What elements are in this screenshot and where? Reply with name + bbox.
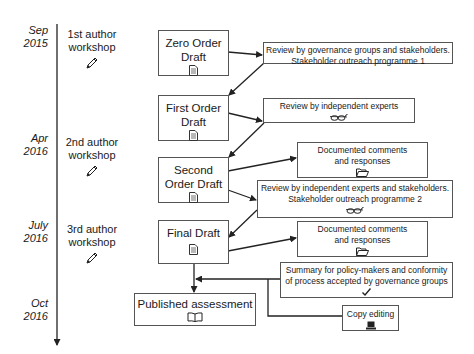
document-icon [189,244,198,255]
first-order-draft-box: First Order Draft [158,95,229,141]
documented-comments-box: Documented comments and responses [297,142,428,178]
workshop-line: workshop [62,41,122,54]
pencil-icon [85,251,99,265]
draft-label: Second [159,163,228,177]
document-icon [189,192,198,203]
summary-policy-makers-box: Summary for policy-makers and conformity… [280,262,453,298]
review-label: Stakeholder outreach programme 2 [258,194,452,205]
review-label: Documented comments [298,145,427,156]
review-label: of process accepted by governance groups [281,276,452,287]
review-label: Review by independent experts [264,101,414,112]
draft-label: Order Draft [159,177,228,191]
date-month: Oct [4,297,48,310]
date-year: 2016 [4,145,48,158]
date-month: Sep [4,24,48,37]
workshop-line: workshop [62,149,122,162]
zero-order-draft-box: Zero Order Draft [158,30,229,76]
review-label: Documented comments [298,224,427,235]
date-month: July [4,219,48,232]
copy-editing-box: Copy editing [342,305,399,331]
workshop-line: 3rd author [62,223,122,236]
laptop-icon [366,321,376,330]
glasses-icon [330,113,348,121]
pencil-icon [85,164,99,178]
published-label: Published assessment [135,297,255,311]
glasses-icon [346,206,364,214]
governance-review-box: Review by governance groups and stakehol… [263,42,453,64]
workshop-label: 1st author workshop [62,28,122,70]
date-month: Apr [4,132,48,145]
timeline-date: July 2016 [4,219,48,245]
second-order-draft-box: Second Order Draft [158,157,229,203]
draft-label: Final Draft [159,226,228,240]
review-label: Stakeholder outreach programme 1 [264,56,452,67]
workshop-label: 2nd author workshop [62,136,122,178]
checkmark-icon [362,288,371,296]
timeline-date: Apr 2016 [4,132,48,158]
date-year: 2016 [4,310,48,323]
published-assessment-box: Published assessment [134,293,256,326]
workshop-label: 3rd author workshop [62,223,122,265]
review-label: Review by independent experts and stakeh… [258,183,452,194]
draft-label: Draft [159,115,228,129]
date-year: 2016 [4,232,48,245]
draft-label: First Order [159,101,228,115]
workshop-line: 2nd author [62,136,122,149]
workshop-line: 1st author [62,28,122,41]
workshop-line: workshop [62,236,122,249]
document-icon [189,65,198,76]
documented-comments-box-2: Documented comments and responses [297,221,428,257]
folder-icon [356,247,369,256]
review-label: and responses [298,156,427,167]
review-label: Review by governance groups and stakehol… [264,45,452,56]
review-label: Summary for policy-makers and conformity [281,265,452,276]
timeline-date: Oct 2016 [4,297,48,323]
document-icon [189,130,198,141]
date-year: 2015 [4,37,48,50]
review-label: and responses [298,235,427,246]
timeline-date: Sep 2015 [4,24,48,50]
independent-experts-review-box: Review by independent experts [263,98,415,123]
final-draft-box: Final Draft [158,220,229,264]
folder-icon [356,168,369,177]
draft-label: Zero Order [159,36,228,50]
independent-experts-stakeholders-review-box: Review by independent experts and stakeh… [257,180,453,218]
book-icon [187,312,203,322]
copy-editing-label: Copy editing [343,309,398,320]
draft-label: Draft [159,50,228,64]
pencil-icon [85,56,99,70]
